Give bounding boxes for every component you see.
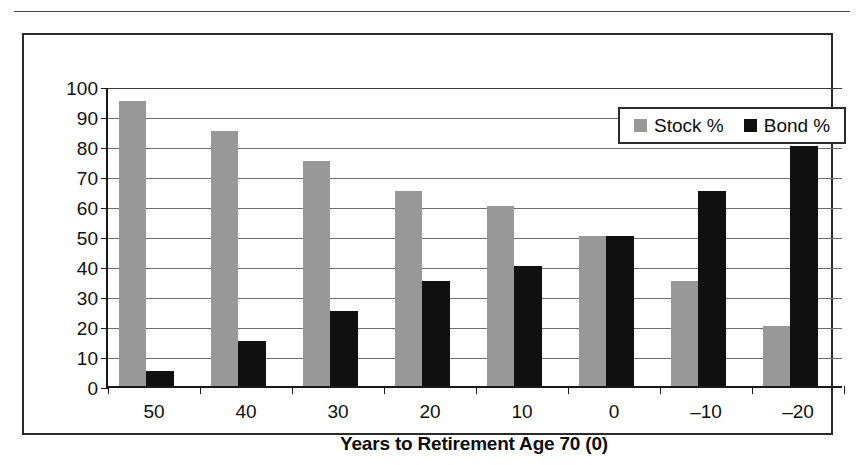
x-axis-label: 50 (143, 402, 164, 421)
page-top-rule (14, 11, 850, 12)
y-axis-tick (101, 148, 108, 149)
bar-bond (330, 311, 358, 386)
x-axis-tick (384, 386, 385, 394)
legend-label-stock: Stock % (654, 116, 724, 135)
x-axis-title: Years to Retirement Age 70 (0) (106, 433, 842, 455)
x-axis-label: 10 (511, 402, 532, 421)
y-axis-label: 0 (87, 379, 98, 398)
legend-swatch-bond-icon (744, 119, 757, 132)
y-axis-tick (101, 178, 108, 179)
bar-stock (119, 101, 147, 386)
bar-stock (303, 161, 331, 386)
y-axis-tick (101, 238, 108, 239)
x-axis-tick (476, 386, 477, 394)
y-axis-label: 80 (77, 139, 98, 158)
legend-swatch-stock-icon (634, 119, 647, 132)
x-axis-tick (752, 386, 753, 394)
y-axis-label: 30 (77, 289, 98, 308)
x-axis-label: –10 (690, 402, 722, 421)
bar-stock (487, 206, 515, 386)
bar-stock (211, 131, 239, 386)
y-axis-tick (101, 358, 108, 359)
bar-bond (514, 266, 542, 386)
y-axis-label: 50 (77, 229, 98, 248)
x-axis-tick (200, 386, 201, 394)
y-axis-label: 60 (77, 199, 98, 218)
legend-entry-bond: Bond % (744, 116, 831, 135)
x-axis-label: 40 (235, 402, 256, 421)
y-axis-tick (101, 88, 108, 89)
y-axis-tick (101, 208, 108, 209)
bar-stock (395, 191, 423, 386)
y-axis-tick (101, 328, 108, 329)
bar-bond (606, 236, 634, 386)
bar-bond (146, 371, 174, 386)
y-axis-tick (101, 268, 108, 269)
y-axis-label: 70 (77, 169, 98, 188)
x-axis-label: 20 (419, 402, 440, 421)
x-axis-label: –20 (782, 402, 814, 421)
y-axis-tick (101, 388, 108, 389)
y-axis-label: 90 (77, 109, 98, 128)
bar-stock (763, 326, 791, 386)
bar-bond (790, 146, 818, 386)
legend-label-bond: Bond % (764, 116, 831, 135)
x-axis-label: 0 (609, 402, 620, 421)
bar-stock (579, 236, 607, 386)
x-axis-tick (108, 386, 109, 394)
y-axis-label: 10 (77, 349, 98, 368)
y-axis-label: 40 (77, 259, 98, 278)
x-axis-tick (568, 386, 569, 394)
gridline (108, 88, 842, 89)
bar-bond (698, 191, 726, 386)
y-axis-tick (101, 118, 108, 119)
x-axis-label: 30 (327, 402, 348, 421)
y-axis-label: 20 (77, 319, 98, 338)
x-axis-tick (844, 386, 845, 394)
x-axis-tick (292, 386, 293, 394)
bar-stock (671, 281, 699, 386)
bar-bond (422, 281, 450, 386)
y-axis-label: 100 (66, 79, 98, 98)
legend-entry-stock: Stock % (634, 116, 724, 135)
x-axis-tick (660, 386, 661, 394)
chart-legend: Stock % Bond % (618, 107, 846, 144)
bar-bond (238, 341, 266, 386)
y-axis-tick (101, 298, 108, 299)
chart-figure-frame: 0102030405060708090100 50403020100–10–20… (22, 33, 833, 435)
